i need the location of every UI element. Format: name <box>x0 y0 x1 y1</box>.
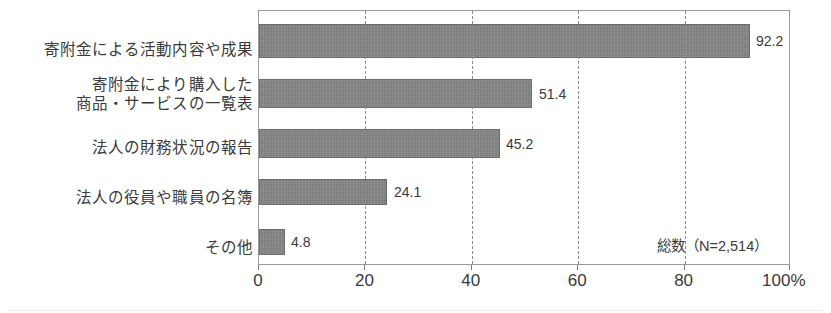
total-count-annotation: 総数（N=2,514） <box>657 238 768 254</box>
x-tick-20 <box>364 265 365 270</box>
bar-value-4: 4.8 <box>291 235 310 249</box>
x-tick-label-0: 0 <box>253 271 262 291</box>
bar-value-3: 24.1 <box>394 185 421 199</box>
plot-area: 92.2 51.4 45.2 24.1 4.8 総数（N=2,514） <box>258 10 790 265</box>
x-tick-label-100: 100% <box>762 271 805 291</box>
category-label-3: 法人の役員や職員の名簿 <box>0 188 253 207</box>
category-label-2: 法人の財務状況の報告 <box>0 138 253 157</box>
x-axis: 0 20 40 60 80 100% <box>258 265 790 311</box>
gridline-60 <box>578 11 579 264</box>
page-edge-artifact <box>8 310 823 311</box>
gridline-80 <box>685 11 686 264</box>
bar-4 <box>259 229 285 255</box>
bar-value-1: 51.4 <box>539 87 566 101</box>
bar-3 <box>259 179 387 205</box>
gridline-40 <box>472 11 473 264</box>
x-tick-label-20: 20 <box>355 271 374 291</box>
category-label-4: その他 <box>0 238 253 257</box>
category-label-1: 寄附金により購入した 商品・サービスの一覧表 <box>0 75 253 113</box>
category-label-0: 寄附金による活動内容や成果 <box>0 40 253 59</box>
plot-inner: 92.2 51.4 45.2 24.1 4.8 総数（N=2,514） <box>259 11 789 264</box>
x-tick-80 <box>684 265 685 270</box>
x-tick-40 <box>471 265 472 270</box>
bar-0 <box>259 24 750 58</box>
bar-chart-figure: 寄附金による活動内容や成果 寄附金により購入した 商品・サービスの一覧表 法人の… <box>0 0 831 313</box>
x-tick-label-40: 40 <box>461 271 480 291</box>
category-axis-labels: 寄附金による活動内容や成果 寄附金により購入した 商品・サービスの一覧表 法人の… <box>0 10 253 265</box>
x-tick-100 <box>789 265 790 270</box>
x-tick-label-60: 60 <box>568 271 587 291</box>
gridline-20 <box>365 11 366 264</box>
bar-value-0: 92.2 <box>756 34 783 48</box>
bar-2 <box>259 129 500 158</box>
bar-value-2: 45.2 <box>506 137 533 151</box>
x-tick-60 <box>577 265 578 270</box>
x-tick-0 <box>258 265 259 270</box>
bar-1 <box>259 79 532 108</box>
x-tick-label-80: 80 <box>674 271 693 291</box>
